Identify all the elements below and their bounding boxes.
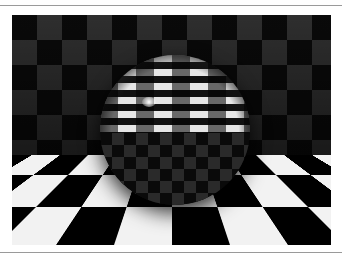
sphere-lower-reflection: [100, 133, 250, 205]
rendered-scene: [12, 15, 331, 245]
sphere-upper-checker: [100, 55, 250, 133]
specular-highlight: [142, 97, 156, 107]
top-border: [0, 5, 342, 6]
reflective-sphere: [100, 55, 250, 205]
bottom-border: [0, 252, 342, 253]
